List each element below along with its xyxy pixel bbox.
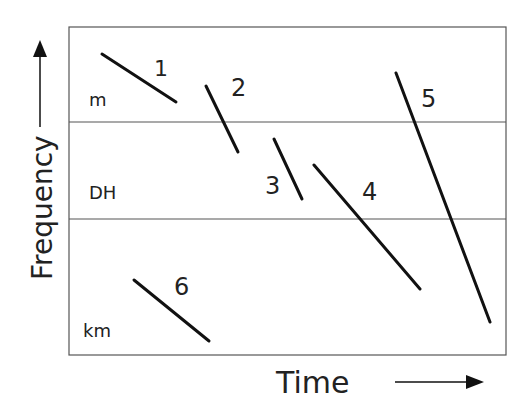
band-label-dh: DH [89, 182, 116, 203]
frequency-time-diagram: 1 2 3 4 5 6 m DH km Frequency Time [0, 0, 529, 412]
track-label-2: 2 [231, 74, 246, 102]
track-label-5: 5 [421, 85, 436, 113]
band-label-m: m [89, 89, 107, 110]
y-axis-arrow-icon [33, 40, 47, 127]
x-axis-arrow-icon [395, 375, 484, 389]
x-axis-label: Time [275, 365, 349, 400]
track-label-4: 4 [362, 178, 377, 206]
y-axis-label: Frequency [26, 135, 59, 280]
track-label-6: 6 [174, 273, 189, 301]
track-label-3: 3 [265, 172, 280, 200]
track-line-6 [134, 280, 209, 341]
track-line-5 [396, 73, 490, 322]
track-label-1: 1 [154, 56, 168, 81]
band-label-km: km [83, 320, 111, 341]
